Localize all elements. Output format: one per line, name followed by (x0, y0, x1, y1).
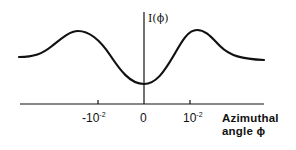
x-tick-label-zero: 0 (140, 112, 147, 124)
x-tick-label-pos: 10-2 (183, 112, 203, 124)
x-axis-label-line2: angle ϕ (222, 125, 279, 138)
x-tick-neg-base: -10 (82, 111, 99, 125)
x-tick-label-neg: -10-2 (82, 112, 106, 124)
x-axis-label-line1: Azimuthal (222, 112, 279, 125)
y-axis-label: I(ϕ) (148, 13, 168, 24)
intensity-curve (19, 30, 264, 84)
x-tick-neg-exp: -2 (99, 111, 105, 118)
x-tick-pos-exp: -2 (196, 111, 202, 118)
x-tick-pos-base: 10 (183, 111, 196, 125)
x-axis-label: Azimuthal angle ϕ (222, 112, 279, 138)
